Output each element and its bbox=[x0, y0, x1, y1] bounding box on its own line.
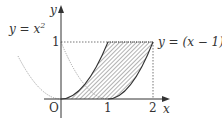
y-axis-label: y bbox=[49, 3, 57, 17]
x-tick-1: 1 bbox=[104, 101, 112, 115]
y-tick-1: 1 bbox=[52, 35, 60, 49]
x-axis-label: x bbox=[163, 102, 170, 116]
diagram: y x O 1 2 1 y = x2 y = (x − 1)2 bbox=[0, 0, 222, 121]
parabola-2-label: y = (x − 1)2 bbox=[157, 34, 222, 49]
parabola-1-extension bbox=[18, 56, 61, 99]
y-axis-arrow-icon bbox=[58, 5, 64, 13]
x-tick-2: 2 bbox=[149, 101, 157, 115]
origin-label: O bbox=[49, 101, 59, 115]
parabola-1-label: y = x2 bbox=[8, 21, 45, 36]
